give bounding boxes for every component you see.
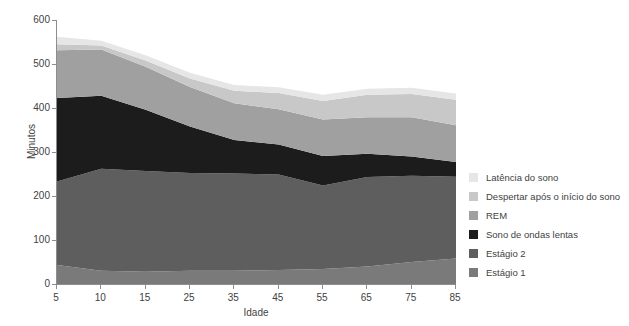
- legend-swatch-icon: [469, 230, 478, 239]
- legend: Latência do sonoDespertar após o início …: [469, 168, 629, 282]
- y-tick-label: 200: [16, 191, 50, 201]
- x-tick-label: 15: [125, 292, 165, 303]
- legend-item-label: Sono de ondas lentas: [486, 229, 578, 240]
- y-tick-mark: [52, 196, 56, 197]
- y-tick-label: 0: [16, 279, 50, 289]
- x-tick-label: 85: [435, 292, 475, 303]
- legend-swatch-icon: [469, 268, 478, 277]
- chart-root: 6005004003002001000 5101525354555657585 …: [0, 0, 629, 326]
- y-tick-mark: [52, 240, 56, 241]
- x-axis-line: [56, 284, 456, 285]
- x-tick-mark: [366, 285, 367, 289]
- x-tick-label: 65: [346, 292, 386, 303]
- y-axis-title: Minutos: [26, 97, 37, 187]
- x-tick-label: 55: [302, 292, 342, 303]
- x-tick-mark: [100, 285, 101, 289]
- x-tick-mark: [322, 285, 323, 289]
- x-tick-mark: [145, 285, 146, 289]
- x-tick-label: 25: [169, 292, 209, 303]
- legend-item[interactable]: Despertar após o início do sono: [469, 187, 629, 206]
- y-tick-label: 600: [16, 15, 50, 25]
- y-tick-mark: [52, 152, 56, 153]
- y-tick-mark: [52, 64, 56, 65]
- plot-area: [57, 20, 456, 284]
- y-tick-mark: [52, 20, 56, 21]
- x-tick-mark: [233, 285, 234, 289]
- legend-item-label: Despertar após o início do sono: [486, 191, 620, 202]
- legend-item-label: Estágio 2: [486, 248, 526, 259]
- x-axis-title: Idade: [56, 307, 456, 318]
- legend-item[interactable]: Estágio 2: [469, 244, 629, 263]
- legend-item[interactable]: Sono de ondas lentas: [469, 225, 629, 244]
- y-tick-label: 100: [16, 235, 50, 245]
- legend-swatch-icon: [469, 173, 478, 182]
- x-tick-label: 10: [80, 292, 120, 303]
- legend-item[interactable]: Estágio 1: [469, 263, 629, 282]
- x-tick-label: 75: [391, 292, 431, 303]
- legend-item-label: Estágio 1: [486, 267, 526, 278]
- legend-item-label: REM: [486, 210, 507, 221]
- x-tick-mark: [189, 285, 190, 289]
- stacked-area-plot: [57, 20, 456, 284]
- x-tick-label: 5: [36, 292, 76, 303]
- y-tick-label: 500: [16, 59, 50, 69]
- x-tick-mark: [411, 285, 412, 289]
- y-axis-line: [56, 20, 57, 285]
- legend-swatch-icon: [469, 211, 478, 220]
- legend-swatch-icon: [469, 249, 478, 258]
- x-tick-label: 45: [258, 292, 298, 303]
- legend-item[interactable]: Latência do sono: [469, 168, 629, 187]
- x-tick-mark: [278, 285, 279, 289]
- area-series: [57, 169, 456, 272]
- legend-item[interactable]: REM: [469, 206, 629, 225]
- x-tick-mark: [56, 285, 57, 289]
- x-tick-mark: [455, 285, 456, 289]
- legend-item-label: Latência do sono: [486, 172, 558, 183]
- legend-swatch-icon: [469, 192, 478, 201]
- x-tick-label: 35: [213, 292, 253, 303]
- y-tick-mark: [52, 108, 56, 109]
